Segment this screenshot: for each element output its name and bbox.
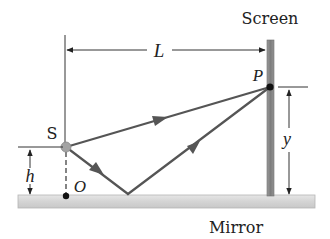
point-p-label: P xyxy=(252,66,263,85)
point-p xyxy=(266,83,273,90)
screen-bar xyxy=(267,40,274,196)
mirror-label: Mirror xyxy=(209,218,263,237)
source-label: S xyxy=(47,124,58,143)
origin-label: O xyxy=(74,177,86,196)
distance-L-label: L xyxy=(153,40,165,61)
distance-L-dimension: L xyxy=(67,40,265,61)
direct-ray-arrow-icon xyxy=(152,116,168,126)
incident-ray-arrow-icon xyxy=(89,162,104,175)
height-y-dimension: y xyxy=(278,87,308,194)
height-y-label: y xyxy=(281,129,291,149)
reflected-ray-arrow-icon xyxy=(187,141,200,154)
height-h-dimension: h xyxy=(18,147,63,194)
screen-label: Screen xyxy=(242,9,299,28)
origin-point xyxy=(63,193,69,199)
height-h-label: h xyxy=(26,166,35,186)
mirror-bar xyxy=(18,195,315,208)
lloyds-mirror-diagram: Screen L S O P h xyxy=(0,0,330,239)
reflected-ray xyxy=(66,87,270,194)
direct-ray xyxy=(66,87,270,147)
